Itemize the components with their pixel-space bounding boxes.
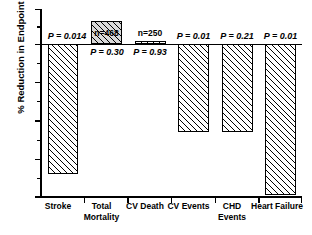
y-tick--10 <box>35 82 41 83</box>
bar-chd-events[interactable] <box>222 44 253 132</box>
pvalue-cv-death: P = 0.93 <box>115 47 185 57</box>
n-label-cv-death: n=250 <box>115 28 185 38</box>
y-tick-minor--5 <box>37 63 40 64</box>
y-tick--20 <box>35 120 41 121</box>
y-tick-minor-5 <box>37 26 40 27</box>
x-category-label-chd-events-line2: Events <box>202 212 262 223</box>
plot-area: P = 0.014 P = 0.30 P = 0.93 P = 0.01 P =… <box>40 9 302 198</box>
x-category-label-total-mortality-line2: Mortality <box>72 212 132 223</box>
pvalue-heart-failure: P = 0.01 <box>246 31 312 41</box>
zero-reference-line <box>40 44 302 46</box>
y-tick--30 <box>35 159 41 160</box>
bar-heart-failure[interactable] <box>265 44 296 196</box>
y-tick-10 <box>35 9 41 10</box>
chart-container: % Reduction in Endpoint 10 0 -10 -20 -30… <box>0 0 311 235</box>
y-tick--40 <box>35 196 41 197</box>
y-tick-minor--35 <box>37 178 40 179</box>
y-tick-minor--15 <box>37 101 40 102</box>
bar-stroke[interactable] <box>48 44 78 175</box>
y-axis-title: % Reduction in Endpoint <box>15 0 26 138</box>
y-tick-minor--25 <box>37 140 40 141</box>
y-tick-0 <box>35 44 41 45</box>
x-category-label-heart-failure: Heart Failure <box>243 201 311 212</box>
